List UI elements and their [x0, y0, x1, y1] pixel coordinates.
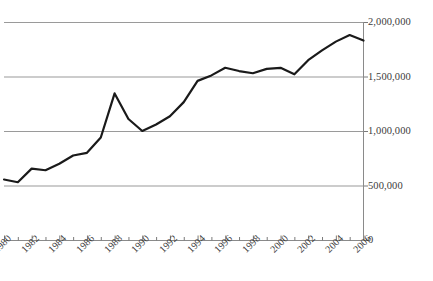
line-chart: 2,000,0001,500,0001,000,000500,0000 1980… [0, 0, 433, 281]
y-axis-tick-label: 1,500,000 [368, 71, 411, 82]
gridlines-group [4, 23, 364, 241]
data-line-series-1 [4, 35, 364, 182]
y-axis-tick-label: 2,000,000 [368, 16, 411, 27]
y-axis-tick-label: 500,000 [368, 180, 403, 191]
y-axis-tick-label: 1,000,000 [368, 125, 411, 136]
